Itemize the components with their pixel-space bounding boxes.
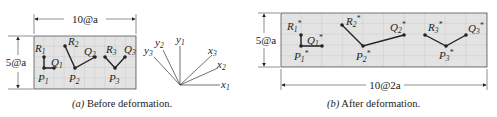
width-label-b: 10@2a	[369, 79, 401, 91]
height-dimension-b: 5@a	[256, 13, 280, 67]
panel-after-deformation: 5@a 10@2a R1* Q1* P1* R2* Q2* P2* R3* Q3	[256, 13, 487, 110]
panel-before-deformation: 10@a 5@a R1 Q1 P1 R2 Q2 P2 R3 Q3 P3	[6, 13, 172, 110]
height-label: 5@a	[6, 56, 27, 68]
height-label-b: 5@a	[256, 34, 277, 46]
axis-x1: x1	[220, 78, 230, 92]
width-dimension-b: 10@2a	[281, 69, 487, 91]
deformation-diagram: 10@a 5@a R1 Q1 P1 R2 Q2 P2 R3 Q3 P3	[0, 0, 497, 117]
height-dimension-a: 5@a	[6, 36, 33, 89]
caption-a: (a) Before deformation.	[72, 98, 172, 110]
axis-x3: x3	[207, 44, 217, 58]
axis-y3: y3	[143, 44, 153, 58]
caption-b: (b) After deformation.	[327, 98, 420, 110]
coordinate-axes: x1 x2 x3 y1 y2 y3	[143, 33, 230, 92]
axis-y2: y2	[154, 36, 164, 50]
width-label: 10@a	[72, 13, 98, 25]
axis-x2: x2	[216, 58, 226, 72]
width-dimension-a: 10@a	[34, 13, 136, 34]
axis-y1: y1	[175, 33, 185, 47]
